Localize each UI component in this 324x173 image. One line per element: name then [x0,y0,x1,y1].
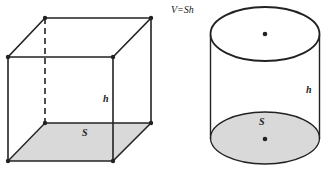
cylinder-base-center [263,137,268,142]
cylinder-height-label: h [306,84,312,95]
cylinder-top-center [263,32,268,37]
cylinder-base-label: S [259,116,265,127]
volume-diagram: h S V=Sh h S [0,0,324,173]
prism-height-label: h [103,93,109,104]
prism-top-face [8,18,151,57]
cylinder: h S [211,7,320,164]
prism-base-label: S [82,127,88,138]
volume-formula: V=Sh [171,4,194,15]
prism-base-face [8,123,151,161]
prism: h S [6,16,153,163]
